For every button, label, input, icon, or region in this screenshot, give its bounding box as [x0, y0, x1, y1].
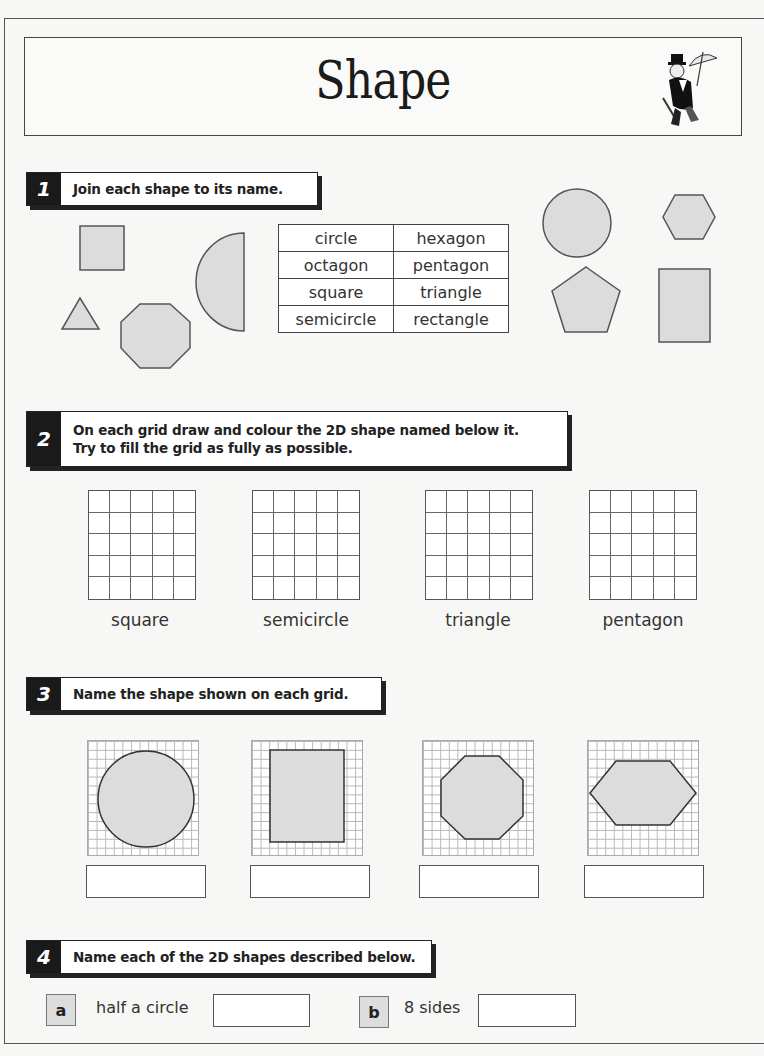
answer-box-hexagon[interactable] — [584, 865, 704, 898]
name-cell: triangle — [394, 279, 509, 306]
shape-grid-hexagon — [587, 740, 699, 856]
grid-label: pentagon — [563, 610, 723, 630]
grid-label: triangle — [398, 610, 558, 630]
item-letter-b: b — [359, 996, 389, 1028]
answer-box-a[interactable] — [213, 994, 310, 1027]
question-instruction: Join each shape to its name. — [61, 180, 283, 198]
drawing-grid-triangle[interactable] — [425, 490, 533, 600]
shape-circle — [541, 187, 613, 259]
shape-grid-circle — [87, 740, 199, 856]
question-instruction: Name each of the 2D shapes described bel… — [61, 948, 415, 966]
question-3-header: 3 Name the shape shown on each grid. — [26, 677, 382, 711]
question-instruction: Name the shape shown on each grid. — [61, 685, 348, 703]
name-cell: hexagon — [394, 225, 509, 252]
shape-names-table: circlehexagon octagonpentagon squaretria… — [278, 224, 509, 333]
question-number: 3 — [27, 678, 61, 710]
question-instruction-line2: Try to fill the grid as fully as possibl… — [73, 439, 519, 457]
shape-semicircle — [194, 231, 248, 333]
shape-rectangle — [658, 268, 712, 344]
grid-label: semicircle — [226, 610, 386, 630]
shape-triangle — [60, 296, 102, 332]
item-description-a: half a circle — [96, 998, 189, 1017]
question-4-header: 4 Name each of the 2D shapes described b… — [26, 940, 432, 974]
item-letter-a: a — [46, 994, 76, 1026]
question-instruction-line1: On each grid draw and colour the 2D shap… — [73, 421, 519, 439]
shape-square — [79, 225, 125, 271]
question-2-header: 2 On each grid draw and colour the 2D sh… — [26, 411, 568, 467]
shape-hexagon — [661, 193, 717, 243]
question-number: 1 — [27, 173, 61, 205]
answer-box-rectangle[interactable] — [250, 865, 370, 898]
grid-label: square — [60, 610, 220, 630]
shape-pentagon — [549, 265, 623, 335]
shape-grid-rectangle — [251, 740, 363, 856]
name-cell: rectangle — [394, 306, 509, 333]
name-cell: pentagon — [394, 252, 509, 279]
name-cell: square — [279, 279, 394, 306]
umbrella-gentleman-icon — [661, 46, 721, 130]
answer-box-b[interactable] — [478, 994, 576, 1027]
answer-box-octagon[interactable] — [419, 865, 539, 898]
question-number: 2 — [27, 412, 61, 466]
question-1-header: 1 Join each shape to its name. — [26, 172, 318, 206]
item-description-b: 8 sides — [404, 998, 460, 1017]
name-cell: circle — [279, 225, 394, 252]
name-cell: semicircle — [279, 306, 394, 333]
page-title: Shape — [79, 50, 688, 110]
drawing-grid-square[interactable] — [88, 490, 196, 600]
question-number: 4 — [27, 941, 61, 973]
title-banner: Shape — [24, 37, 742, 136]
drawing-grid-pentagon[interactable] — [589, 490, 697, 600]
shape-grid-octagon — [422, 740, 534, 856]
answer-box-circle[interactable] — [86, 865, 206, 898]
drawing-grid-semicircle[interactable] — [252, 490, 360, 600]
name-cell: octagon — [279, 252, 394, 279]
shape-octagon — [119, 302, 193, 370]
